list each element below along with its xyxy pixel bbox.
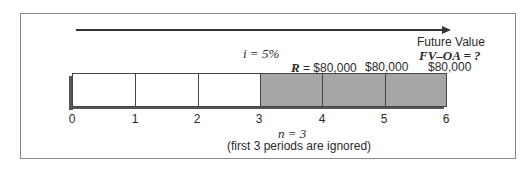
- timeline-bar: [72, 73, 447, 107]
- period-cell-2: [135, 73, 198, 107]
- period-cell-1: [72, 73, 135, 107]
- arrow-head-icon: [442, 26, 451, 34]
- period-cell-5-shaded: [322, 73, 385, 107]
- tick-4: 4: [315, 112, 329, 126]
- tick-3: 3: [252, 112, 266, 126]
- period-cell-6-shaded: [385, 73, 447, 107]
- periods-note: (first 3 periods are ignored): [227, 140, 371, 153]
- tick-5: 5: [377, 112, 391, 126]
- tick-0: 0: [65, 112, 79, 126]
- period-cell-3: [198, 73, 260, 107]
- interest-rate-label: i = 5%: [243, 47, 279, 60]
- period-cell-4-shaded: [260, 73, 322, 107]
- tick-6: 6: [439, 112, 453, 126]
- tick-2: 2: [190, 112, 204, 126]
- time-arrow-line: [76, 29, 444, 31]
- tick-1: 1: [128, 112, 142, 126]
